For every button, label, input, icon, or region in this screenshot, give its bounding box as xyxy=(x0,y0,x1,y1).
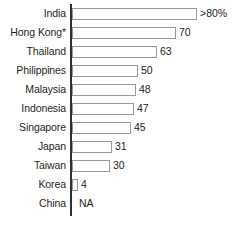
value-label-india: >80% xyxy=(200,4,227,23)
value-label-singapore: 45 xyxy=(134,118,146,137)
bar-japan xyxy=(72,141,112,153)
bar-hong-kong xyxy=(72,27,176,39)
bar-area-indonesia: 47 xyxy=(72,99,149,118)
bar-rows-container: India >80% Hong Kong* 70 Thailand 63 Phi… xyxy=(0,0,239,225)
bar-thailand xyxy=(72,46,157,58)
bar-area-thailand: 63 xyxy=(72,42,172,61)
value-label-japan: 31 xyxy=(115,137,127,156)
value-label-philippines: 50 xyxy=(141,61,153,80)
bar-chart: India >80% Hong Kong* 70 Thailand 63 Phi… xyxy=(0,0,239,225)
bar-taiwan xyxy=(72,160,110,172)
bar-area-hong-kong: 70 xyxy=(72,23,191,42)
bar-area-taiwan: 30 xyxy=(72,156,125,175)
bar-india xyxy=(72,8,197,20)
bar-area-japan: 31 xyxy=(72,137,127,156)
category-label-hong-kong: Hong Kong* xyxy=(0,23,66,42)
value-label-indonesia: 47 xyxy=(137,99,149,118)
table-row: Thailand 63 xyxy=(0,42,239,61)
category-label-singapore: Singapore xyxy=(0,118,66,137)
category-label-indonesia: Indonesia xyxy=(0,99,66,118)
table-row: Japan 31 xyxy=(0,137,239,156)
bar-area-philippines: 50 xyxy=(72,61,153,80)
category-label-thailand: Thailand xyxy=(0,42,66,61)
category-label-malaysia: Malaysia xyxy=(0,80,66,99)
table-row: Philippines 50 xyxy=(0,61,239,80)
bar-korea xyxy=(72,179,78,191)
value-label-malaysia: 48 xyxy=(139,80,151,99)
table-row: China NA xyxy=(0,194,239,213)
table-row: India >80% xyxy=(0,4,239,23)
bar-area-india: >80% xyxy=(72,4,227,23)
category-label-philippines: Philippines xyxy=(0,61,66,80)
table-row: Taiwan 30 xyxy=(0,156,239,175)
table-row: Indonesia 47 xyxy=(0,99,239,118)
value-label-china: NA xyxy=(79,194,94,213)
value-label-korea: 4 xyxy=(81,175,87,194)
category-label-korea: Korea xyxy=(0,175,66,194)
bar-area-malaysia: 48 xyxy=(72,80,151,99)
table-row: Hong Kong* 70 xyxy=(0,23,239,42)
category-label-taiwan: Taiwan xyxy=(0,156,66,175)
category-label-china: China xyxy=(0,194,66,213)
value-label-thailand: 63 xyxy=(160,42,172,61)
bar-area-china: NA xyxy=(72,194,94,213)
table-row: Malaysia 48 xyxy=(0,80,239,99)
table-row: Singapore 45 xyxy=(0,118,239,137)
table-row: Korea 4 xyxy=(0,175,239,194)
category-label-india: India xyxy=(0,4,66,23)
value-label-taiwan: 30 xyxy=(113,156,125,175)
category-label-japan: Japan xyxy=(0,137,66,156)
bar-singapore xyxy=(72,122,131,134)
bar-indonesia xyxy=(72,103,134,115)
bar-area-singapore: 45 xyxy=(72,118,146,137)
bar-malaysia xyxy=(72,84,136,96)
bar-philippines xyxy=(72,65,138,77)
bar-area-korea: 4 xyxy=(72,175,87,194)
value-label-hong-kong: 70 xyxy=(179,23,191,42)
